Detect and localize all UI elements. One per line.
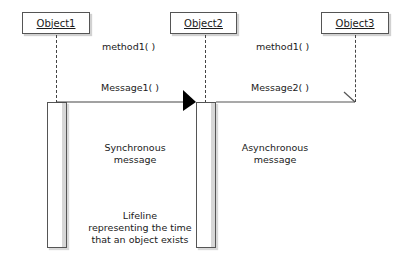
object3-box: Object3 <box>321 12 389 34</box>
sequence-diagram: Object1 Object2 Object3 method1( ) metho… <box>0 0 407 267</box>
synchronous-arrowhead-icon <box>183 90 196 111</box>
object1-activation-bar <box>47 102 67 248</box>
message2-label: Message2( ) <box>250 82 310 94</box>
object3-lifeline <box>355 35 356 102</box>
object2-box: Object2 <box>170 12 237 34</box>
asynchronous-half-arrowhead-icon <box>344 92 355 102</box>
message1-label: Message1( ) <box>100 82 160 94</box>
object2-lifeline <box>205 35 206 103</box>
method1-label-left: method1( ) <box>102 41 152 53</box>
object3-label: Object3 <box>336 18 375 29</box>
object2-label: Object2 <box>184 18 223 29</box>
object1-lifeline <box>56 35 57 103</box>
object1-label: Object1 <box>37 18 76 29</box>
object1-box: Object1 <box>22 12 90 34</box>
method1-label-right: method1( ) <box>256 41 306 53</box>
asynchronous-annotation: Asynchronous message <box>235 142 315 166</box>
synchronous-annotation: Synchronous message <box>95 142 175 166</box>
lifeline-annotation: Lifeline representing the time that an o… <box>80 210 200 246</box>
